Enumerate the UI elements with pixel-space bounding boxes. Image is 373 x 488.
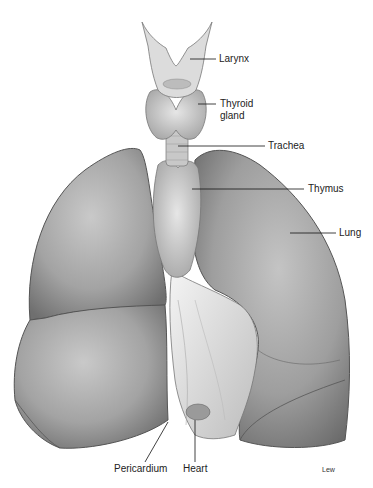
larynx — [142, 22, 212, 98]
label-thyroid-line2: gland — [220, 110, 244, 122]
label-larynx: Larynx — [219, 53, 249, 65]
artist-credit: Lew — [322, 466, 335, 473]
label-pericardium: Pericardium — [114, 463, 167, 475]
label-trachea: Trachea — [268, 140, 304, 152]
label-heart: Heart — [183, 463, 207, 475]
label-thyroid-line1: Thyroid — [220, 98, 253, 110]
label-thymus: Thymus — [308, 183, 344, 195]
label-lung: Lung — [339, 227, 361, 239]
heart — [186, 404, 210, 420]
left-lung — [14, 148, 168, 448]
thoracic-anatomy-illustration — [0, 0, 373, 488]
